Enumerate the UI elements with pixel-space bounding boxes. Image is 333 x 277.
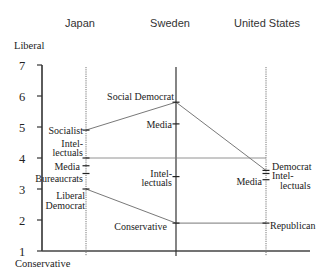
point-label: lectuals	[52, 147, 83, 158]
point-label: Bureaucrats	[35, 173, 83, 184]
y-tick-label: 2	[19, 214, 25, 228]
y-tick-label: 3	[19, 183, 25, 197]
point-label: Media	[146, 119, 172, 130]
point-labels: SocialistIntel-lectualsMediaBureaucratsL…	[35, 91, 315, 232]
conservative-label: Conservative	[15, 258, 71, 269]
country-header: Sweden	[150, 17, 190, 29]
point-label: lectuals	[280, 180, 311, 191]
point-label: lectuals	[141, 177, 172, 188]
y-tick-label: 7	[19, 59, 25, 73]
country-header: United States	[234, 17, 301, 29]
y-tick-label: 5	[19, 121, 25, 135]
point-label: Conservative	[114, 221, 167, 232]
country-headers: JapanSwedenUnited States	[65, 17, 301, 29]
point-label: Socialist	[49, 125, 84, 136]
liberal-label: Liberal	[14, 40, 44, 51]
ideology-chart: JapanSwedenUnited States LiberalConserva…	[0, 0, 333, 277]
point-label: Social Democrat	[107, 91, 174, 102]
point-label: Media	[54, 161, 80, 172]
point-label: Democrat	[46, 200, 86, 211]
point-label: Republican	[270, 220, 316, 231]
country-header: Japan	[65, 17, 95, 29]
y-tick-label: 6	[19, 90, 25, 104]
y-tick-label: 4	[19, 152, 26, 166]
point-label: Media	[236, 176, 262, 187]
y-tick-label: 1	[19, 245, 25, 259]
